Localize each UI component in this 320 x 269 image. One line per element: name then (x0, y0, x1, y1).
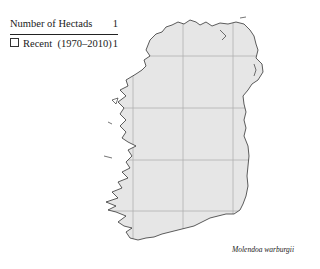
ireland-map (0, 0, 320, 269)
species-caption: Molendoa warburgii (232, 245, 294, 254)
island-achill (112, 98, 118, 104)
land-fill (106, 20, 263, 240)
island-rathlin (240, 17, 246, 18)
island-aran (104, 156, 112, 158)
island-west-1 (108, 122, 112, 124)
